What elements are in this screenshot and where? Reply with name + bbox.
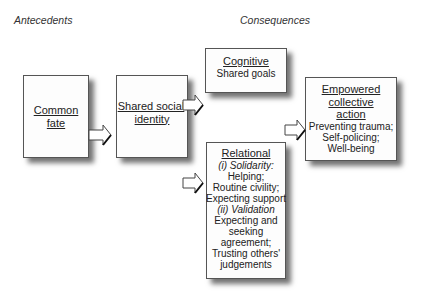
empowered-box: Empowered collective action Preventing t…: [305, 77, 397, 161]
arrow-right-icon: [182, 94, 206, 116]
solidarity-item: Expecting support: [204, 193, 288, 204]
empowered-body-item: Self-policing;: [306, 132, 396, 143]
cognitive-box: Cognitive Shared goals: [205, 48, 287, 93]
cognitive-body: Shared goals: [206, 68, 286, 79]
shared-identity-box: Shared social identity: [116, 75, 188, 158]
validation-item: Trusting others': [207, 248, 285, 259]
validation-label: (ii) Validation: [207, 204, 285, 215]
arrow-right-icon: [88, 124, 114, 146]
solidarity-item: Helping;: [207, 171, 285, 182]
shared-identity-title-line1: Shared social: [115, 100, 187, 113]
shared-identity-title-line2: identity: [117, 113, 187, 126]
empowered-body-item: Well-being: [306, 143, 396, 154]
common-fate-box: Common fate: [23, 75, 89, 158]
common-fate-title-line2: fate: [24, 117, 88, 130]
antecedents-heading: Antecedents: [14, 14, 72, 26]
common-fate-title-line1: Common: [24, 104, 88, 117]
empowered-body-item: Preventing trauma;: [306, 121, 396, 132]
relational-box: Relational (i) Solidarity: Helping; Rout…: [206, 142, 286, 279]
validation-item: Expecting and: [207, 215, 285, 226]
empowered-title-line3: action: [306, 108, 396, 121]
solidarity-label: (i) Solidarity:: [207, 160, 285, 171]
arrow-right-icon: [284, 119, 308, 141]
solidarity-item: Routine civility;: [207, 182, 285, 193]
cognitive-title: Cognitive: [206, 55, 286, 68]
consequences-heading: Consequences: [240, 14, 310, 26]
validation-item: seeking: [207, 226, 285, 237]
empowered-title-line2: collective: [306, 96, 396, 109]
validation-item: agreement;: [207, 237, 285, 248]
empowered-title-line1: Empowered: [306, 83, 396, 96]
arrow-right-icon: [182, 172, 206, 194]
relational-title: Relational: [207, 147, 285, 160]
validation-item: judgements: [207, 259, 285, 270]
